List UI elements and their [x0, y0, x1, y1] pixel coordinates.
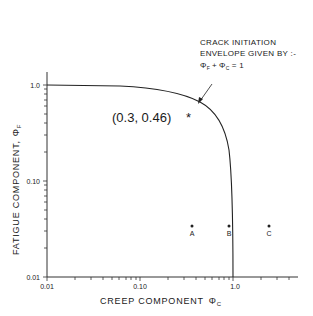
- svg-text:B: B: [227, 230, 232, 237]
- x-tick-label-1: 1.0: [230, 283, 240, 290]
- x-axis-title: CREEP COMPONENTΦC: [100, 296, 222, 307]
- x-tick-label-010: 0.10: [133, 283, 147, 290]
- y-tick-label-010: 0.10: [26, 178, 40, 185]
- annotation-line-2: ENVELOPE GIVEN BY :-: [200, 49, 296, 58]
- y-tick-label-1: 1.0: [30, 82, 40, 89]
- annotation-equation: ΦF+ΦC= 1: [200, 61, 244, 71]
- marker-a: A: [190, 225, 195, 238]
- svg-text:A: A: [190, 230, 195, 237]
- chart: 1.0 0.10 0.01 0.01 0.10 1.0 CRACK INITIA…: [0, 0, 313, 316]
- marker-c: C: [266, 225, 271, 238]
- point-label: (0.3, 0.46): [112, 110, 171, 125]
- y-ticks: [43, 85, 47, 277]
- x-tick-label-001: 0.01: [40, 283, 54, 290]
- y-tick-label-001: 0.01: [26, 274, 40, 281]
- annotation-line-1: CRACK INITIATION: [200, 38, 276, 47]
- y-axis-title: FATIGUE COMPONENT,ΦF: [11, 124, 22, 255]
- marker-b: B: [227, 225, 232, 238]
- svg-text:C: C: [266, 230, 271, 237]
- svg-text:ΦF+ΦC= 1: ΦF+ΦC= 1: [200, 61, 244, 71]
- x-ticks: [47, 277, 289, 281]
- star-marker-icon: *: [186, 110, 191, 125]
